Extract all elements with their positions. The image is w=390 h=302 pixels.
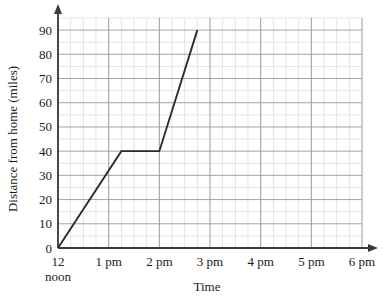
y-tick-label: 60 — [39, 95, 52, 110]
y-tick-label: 40 — [39, 144, 52, 159]
y-tick-label: 90 — [39, 23, 52, 38]
y-tick-label: 20 — [39, 192, 52, 207]
x-axis-title: Time — [194, 279, 221, 294]
x-tick-label: 5 pm — [298, 254, 324, 269]
x-tick-label: 6 pm — [349, 254, 375, 269]
chart-container: 0102030405060708090 12noon1 pm2 pm3 pm4 … — [0, 0, 390, 302]
x-tick-label: 4 pm — [247, 254, 273, 269]
y-tick-label: 30 — [39, 168, 52, 183]
y-tick-label: 70 — [39, 71, 52, 86]
y-axis-title: Distance from home (miles) — [5, 66, 20, 212]
x-tick-label: 12 — [52, 254, 65, 269]
x-tick-label: 3 pm — [197, 254, 223, 269]
x-tick-label: 2 pm — [146, 254, 172, 269]
x-tick-sublabel: noon — [45, 269, 72, 284]
distance-time-line-chart: 0102030405060708090 12noon1 pm2 pm3 pm4 … — [0, 0, 390, 302]
x-tick-label: 1 pm — [95, 254, 121, 269]
y-tick-label: 50 — [39, 119, 52, 134]
y-tick-label: 10 — [39, 216, 52, 231]
y-tick-label: 80 — [39, 47, 52, 62]
